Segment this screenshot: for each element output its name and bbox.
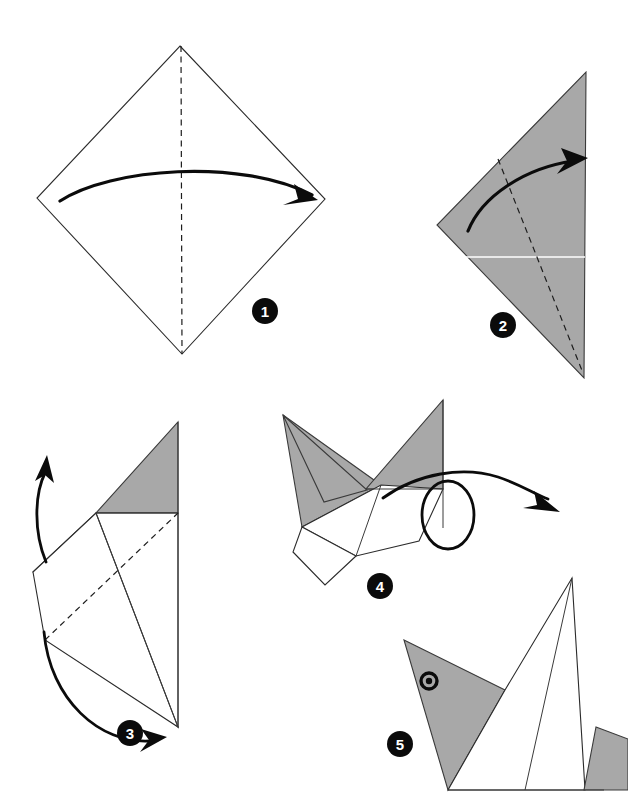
origami-instruction-sheet: 1 2 3 (0, 0, 628, 808)
step-5-eye-pupil-icon (426, 678, 432, 684)
step-2-badge-label: 2 (499, 317, 507, 334)
step-3-up-arrow-shaft (37, 473, 46, 562)
step-5-gray-tail (584, 727, 628, 790)
step-4-badge-label: 4 (376, 578, 385, 595)
diagram-canvas: 1 2 3 (0, 0, 628, 808)
step-5-badge-label: 5 (396, 736, 404, 753)
step-3-badge-label: 3 (126, 725, 134, 742)
step-5-group: 5 (387, 578, 628, 790)
step-3-up-arrow-head-icon (35, 455, 54, 483)
step-1-badge-label: 1 (261, 303, 269, 320)
step-4-group: 4 (283, 400, 560, 599)
step-3-gray-top-flap (96, 422, 178, 513)
step-2-group: 2 (437, 72, 588, 378)
step-1-group: 1 (37, 46, 325, 354)
step-4-rotate-arrow-head-icon (523, 491, 560, 512)
step-3-group: 3 (33, 422, 178, 752)
